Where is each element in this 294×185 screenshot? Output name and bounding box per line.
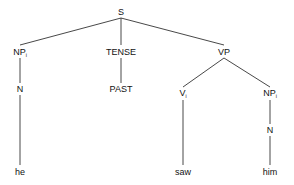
- node-v: Vi: [179, 88, 186, 99]
- edge-vp-np2: [224, 58, 270, 87]
- node-n-object: N: [267, 125, 274, 135]
- node-past: PAST: [110, 84, 133, 94]
- node-np-object: NPi: [263, 88, 277, 99]
- node-np-subject: NPi: [13, 47, 27, 58]
- edge-s-vp: [121, 18, 224, 45]
- leaf-he: he: [15, 167, 25, 177]
- edge-vp-v: [183, 58, 224, 87]
- syntax-tree: S NPi TENSE VP N PAST Vi NPi N he saw hi…: [0, 0, 294, 185]
- node-s: S: [118, 7, 124, 17]
- edge-s-np1: [20, 18, 121, 45]
- leaf-him: him: [263, 167, 278, 177]
- node-vp: VP: [218, 47, 230, 57]
- node-tense: TENSE: [106, 47, 136, 57]
- leaf-saw: saw: [175, 167, 192, 177]
- node-n-subject: N: [17, 84, 24, 94]
